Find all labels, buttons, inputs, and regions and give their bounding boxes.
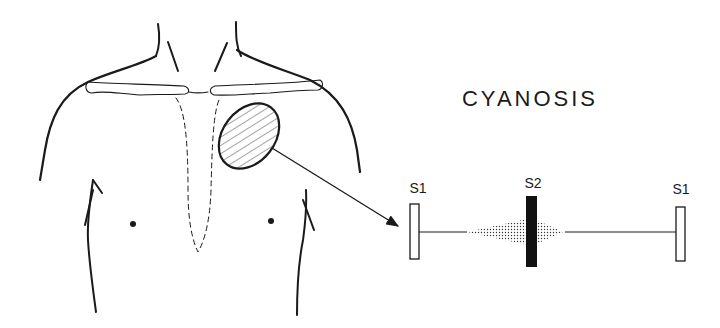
s2-bar (526, 196, 537, 267)
shoulder-left (40, 56, 156, 180)
neck-left-inner (168, 42, 178, 71)
phonocardiogram (410, 196, 685, 267)
neck-right-inner (215, 43, 227, 71)
clavicle-left (86, 82, 189, 95)
neck-left-outer (156, 24, 159, 56)
s1-right-bar (676, 207, 685, 261)
s1-left-bar (410, 204, 419, 259)
s2-label: S2 (524, 175, 541, 191)
sternal-notch (189, 92, 208, 93)
torso-left-side (88, 180, 96, 312)
murmur-diamond (467, 218, 563, 246)
chest-illustration (0, 0, 720, 328)
nipple-left (130, 221, 136, 227)
diagram-title: CYANOSIS (440, 86, 620, 112)
pointer-arrow (272, 148, 398, 226)
s1-left-label: S1 (409, 180, 426, 196)
sternum (176, 98, 220, 252)
pulmonic-area-hatched (206, 92, 291, 181)
axilla-left (85, 180, 102, 225)
clavicle-right (210, 80, 322, 95)
cyanosis-diagram: CYANOSIS S1 S2 S1 (0, 0, 720, 328)
torso-right-side (297, 190, 306, 315)
s1-right-label: S1 (672, 181, 689, 197)
nipple-right (268, 218, 274, 224)
